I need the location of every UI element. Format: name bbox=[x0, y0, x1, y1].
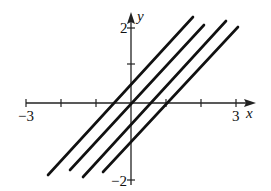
x-axis-label: x bbox=[245, 105, 253, 121]
line-2 bbox=[70, 25, 204, 170]
y-axis bbox=[127, 12, 135, 185]
line-4 bbox=[103, 27, 238, 172]
x-min-label: −3 bbox=[18, 108, 34, 124]
chart: −3 3 x 2 y −2 bbox=[0, 0, 271, 191]
y-axis-label: y bbox=[135, 8, 144, 24]
x-max-label: 3 bbox=[232, 108, 240, 124]
line-series bbox=[48, 17, 238, 177]
y-min-label: −2 bbox=[111, 173, 127, 189]
y-max-label: 2 bbox=[120, 20, 128, 36]
x-axis bbox=[26, 99, 256, 107]
line-3 bbox=[83, 21, 226, 177]
